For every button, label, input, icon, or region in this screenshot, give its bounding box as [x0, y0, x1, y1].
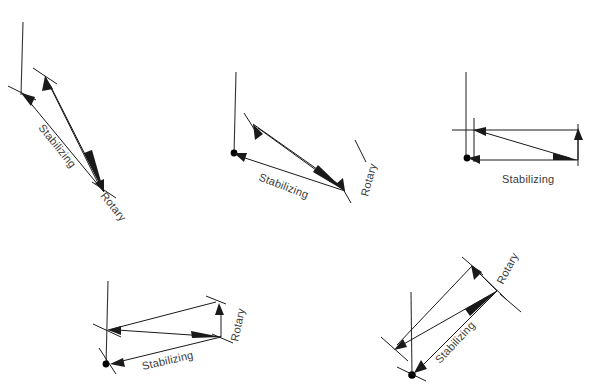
panel-1: Stabilizing Rotary — [8, 22, 129, 224]
resultant-wedge — [313, 165, 345, 191]
vector-diagram-figure: Stabilizing Rotary Stabilizing Rotary — [0, 0, 591, 389]
rotary-top-tick — [206, 296, 226, 304]
reference-line — [21, 22, 23, 95]
stabilizing-arrowhead — [21, 93, 35, 106]
panel-4: Stabilizing Rotary — [93, 281, 247, 374]
rotary-label: Rotary — [494, 250, 521, 286]
panel-3: Stabilizing — [452, 72, 583, 185]
reference-line — [411, 292, 412, 377]
reference-line — [106, 281, 108, 366]
stabilizing-label: Stabilizing — [502, 173, 554, 185]
rotary-arrowhead — [253, 124, 263, 140]
stabilizing-arrowhead — [234, 153, 247, 162]
origin-tick — [99, 348, 116, 374]
rotary-top-tick — [355, 140, 366, 162]
resultant-wedge — [553, 153, 578, 160]
panel-2: Stabilizing Rotary — [231, 72, 379, 203]
stabilizing-label: Stabilizing — [141, 348, 195, 371]
panel-5: Stabilizing Rotary — [381, 250, 521, 381]
rotary-dimension-top — [108, 302, 216, 330]
rotary-arrowhead — [473, 127, 486, 136]
rotary-label: Rotary — [228, 307, 247, 343]
rotary-label: Rotary — [98, 190, 129, 224]
stabilizing-label: Stabilizing — [433, 319, 477, 365]
resultant-wedge — [465, 291, 497, 316]
rotary-dimension-arrowhead — [215, 303, 224, 315]
reference-line — [234, 72, 236, 155]
rotary-label: Rotary — [358, 162, 378, 198]
stabilizing-label: Stabilizing — [257, 171, 310, 201]
stabilizing-arrowhead — [414, 360, 427, 373]
resultant-wedge — [191, 331, 221, 338]
left-vertex-tick — [381, 337, 408, 361]
stabilizing-arrowhead — [110, 358, 125, 367]
